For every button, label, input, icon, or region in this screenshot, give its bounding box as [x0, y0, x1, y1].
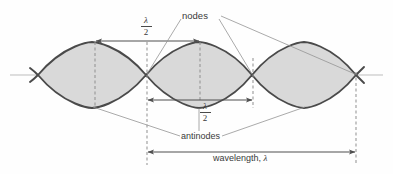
wavelength-label: wavelength, λ	[213, 153, 267, 163]
standing-wave-canvas	[0, 0, 393, 174]
antinodes-leader-to-antinode-1	[93, 107, 180, 136]
lambda-numerator: λ	[139, 16, 153, 26]
half-wavelength-middle-label: λ 2	[198, 102, 212, 123]
wave-envelope-group	[30, 42, 364, 108]
wave-lobe-2	[146, 42, 252, 108]
wavelength-text: wavelength,	[213, 153, 261, 163]
standing-wave-diagram: nodes antinodes wavelength, λ λ 2 λ 2	[0, 0, 393, 174]
nodes-label: nodes	[182, 10, 208, 21]
antinodes-leader-to-antinode-3	[222, 107, 305, 136]
antinodes-label: antinodes	[181, 131, 220, 141]
wave-lobe-1	[38, 42, 146, 108]
lambda-numerator: λ	[198, 102, 212, 112]
two-denominator: 2	[139, 27, 153, 37]
lambda-symbol: λ	[264, 153, 268, 163]
two-denominator: 2	[198, 113, 212, 123]
half-wavelength-top-label: λ 2	[139, 16, 153, 37]
